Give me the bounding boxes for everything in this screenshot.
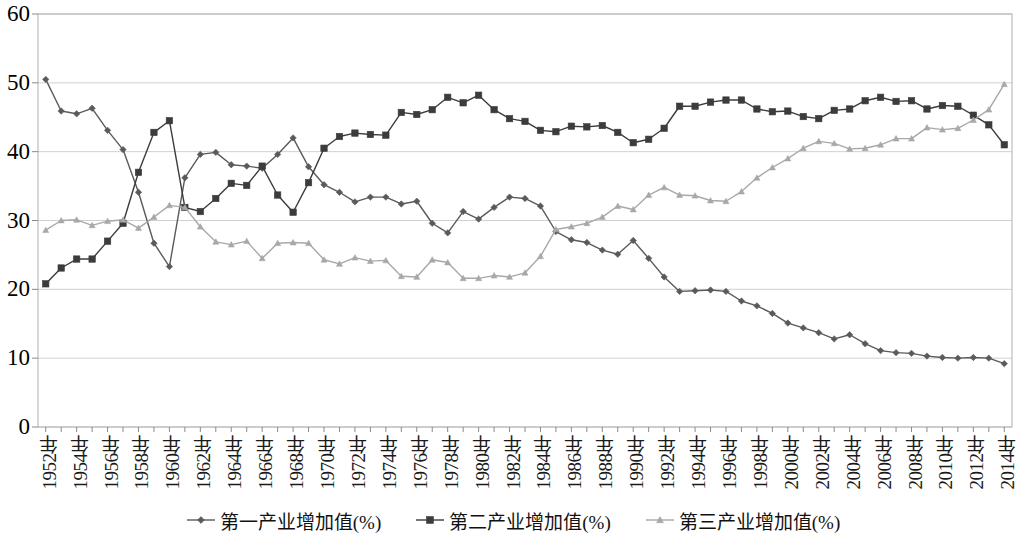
data-point-marker: [769, 109, 775, 115]
data-point-marker: [43, 281, 49, 287]
data-point-marker: [599, 122, 605, 128]
data-point-marker: [661, 125, 667, 131]
legend-marker-icon: [415, 513, 445, 527]
x-tick-label-1994: 1994年: [685, 435, 712, 490]
x-tick-label-1960: 1960年: [159, 435, 186, 490]
data-point-marker: [877, 94, 883, 100]
x-tick-label-1990: 1990年: [623, 435, 650, 490]
x-tick-label-1998: 1998年: [747, 435, 774, 490]
data-point-marker: [58, 265, 64, 271]
x-tick-label-2000: 2000年: [778, 435, 805, 490]
data-point-marker: [104, 238, 110, 244]
data-point-marker: [506, 115, 512, 121]
data-point-marker: [73, 256, 79, 262]
y-tick-label-10: 10: [0, 346, 30, 369]
data-point-marker: [259, 163, 265, 169]
data-point-marker: [151, 129, 157, 135]
data-point-marker: [955, 103, 961, 109]
legend-label: 第二产业增加值(%): [449, 507, 610, 534]
data-point-marker: [831, 107, 837, 113]
x-tick-label-2014: 2014年: [994, 435, 1021, 490]
data-point-marker: [398, 109, 404, 115]
x-tick-label-1956: 1956年: [98, 435, 125, 490]
data-point-marker: [135, 169, 141, 175]
data-point-marker: [475, 92, 481, 98]
x-tick-label-2010: 2010年: [932, 435, 959, 490]
data-point-marker: [491, 106, 497, 112]
legend-label: 第一产业增加值(%): [220, 507, 381, 534]
data-point-marker: [290, 209, 296, 215]
legend-label: 第三产业增加值(%): [679, 507, 840, 534]
data-point-marker: [89, 256, 95, 262]
data-point-marker: [444, 94, 450, 100]
x-tick-label-1984: 1984年: [530, 435, 557, 490]
x-tick-label-2006: 2006年: [871, 435, 898, 490]
x-tick-label-2008: 2008年: [902, 435, 929, 490]
data-point-marker: [537, 127, 543, 133]
x-tick-label-1978: 1978年: [438, 435, 465, 490]
data-point-marker: [429, 106, 435, 112]
data-point-marker: [427, 517, 434, 524]
x-tick-label-1958: 1958年: [128, 435, 155, 490]
data-point-marker: [846, 106, 852, 112]
data-point-marker: [630, 140, 636, 146]
data-point-marker: [166, 117, 172, 123]
chart-legend: 第一产业增加值(%)第二产业增加值(%)第三产业增加值(%): [0, 505, 1026, 535]
data-point-marker: [785, 108, 791, 114]
x-tick-label-1968: 1968年: [283, 435, 310, 490]
data-point-marker: [336, 133, 342, 139]
data-point-marker: [986, 122, 992, 128]
chart-container: 0102030405060 1952年1954年1956年1958年1960年1…: [0, 0, 1026, 535]
data-point-marker: [197, 208, 203, 214]
data-point-marker: [414, 111, 420, 117]
x-tick-label-1972: 1972年: [345, 435, 372, 490]
x-tick-label-1954: 1954年: [67, 435, 94, 490]
data-point-marker: [615, 129, 621, 135]
data-point-marker: [800, 113, 806, 119]
data-point-marker: [553, 129, 559, 135]
data-point-marker: [707, 99, 713, 105]
data-point-marker: [522, 118, 528, 124]
x-tick-label-2012: 2012年: [963, 435, 990, 490]
data-point-marker: [893, 98, 899, 104]
legend-marker-icon: [645, 513, 675, 527]
data-point-marker: [213, 195, 219, 201]
data-point-marker: [738, 97, 744, 103]
data-point-marker: [645, 136, 651, 142]
legend-item-2[interactable]: 第二产业增加值(%): [415, 507, 610, 534]
data-point-marker: [383, 132, 389, 138]
legend-item-3[interactable]: 第三产业增加值(%): [645, 507, 840, 534]
x-tick-label-1980: 1980年: [469, 435, 496, 490]
data-point-marker: [816, 115, 822, 121]
data-point-marker: [228, 180, 234, 186]
data-point-marker: [367, 131, 373, 137]
x-tick-label-2002: 2002年: [809, 435, 836, 490]
data-point-marker: [908, 98, 914, 104]
y-tick-label-20: 20: [0, 277, 30, 300]
data-point-marker: [305, 179, 311, 185]
data-point-marker: [1001, 142, 1007, 148]
x-tick-label-1952: 1952年: [36, 435, 63, 490]
data-point-marker: [244, 182, 250, 188]
x-tick-label-1962: 1962年: [190, 435, 217, 490]
x-tick-label-2004: 2004年: [840, 435, 867, 490]
x-tick-label-1992: 1992年: [654, 435, 681, 490]
legend-item-1[interactable]: 第一产业增加值(%): [186, 507, 381, 534]
data-point-marker: [939, 102, 945, 108]
x-tick-label-1976: 1976年: [407, 435, 434, 490]
x-tick-label-1986: 1986年: [561, 435, 588, 490]
x-tick-label-1966: 1966年: [252, 435, 279, 490]
data-point-marker: [197, 517, 204, 524]
data-point-marker: [460, 100, 466, 106]
data-point-marker: [568, 123, 574, 129]
legend-marker-icon: [186, 513, 216, 527]
data-point-marker: [723, 97, 729, 103]
data-point-marker: [692, 103, 698, 109]
x-tick-label-1988: 1988年: [592, 435, 619, 490]
x-tick-label-1974: 1974年: [376, 435, 403, 490]
y-tick-label-0: 0: [0, 415, 30, 438]
data-point-marker: [924, 106, 930, 112]
x-tick-label-1982: 1982年: [500, 435, 527, 490]
data-point-marker: [862, 98, 868, 104]
y-tick-label-60: 60: [0, 2, 30, 25]
